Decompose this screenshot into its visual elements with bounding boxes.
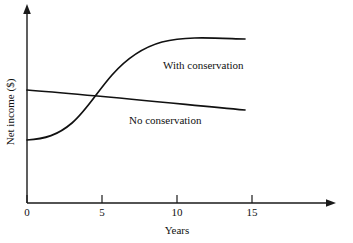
y-axis-arrow-icon <box>23 4 31 14</box>
x-axis-arrow-icon <box>326 199 336 207</box>
x-axis-ticks <box>27 195 252 203</box>
x-tick-label-5: 5 <box>99 206 105 218</box>
y-axis-title: Net income ($) <box>4 78 17 145</box>
series-label-no-conservation: No conservation <box>129 114 202 126</box>
series-line-no-conservation <box>27 90 245 110</box>
series-label-with-conservation: With conservation <box>163 59 244 71</box>
chart-figure: 0 5 10 15 Years Net income ($) With cons… <box>0 0 353 243</box>
x-tick-label-0: 0 <box>24 206 30 218</box>
x-axis-title: Years <box>165 224 190 236</box>
x-tick-label-10: 10 <box>172 206 184 218</box>
x-tick-label-15: 15 <box>247 206 259 218</box>
chart-canvas: 0 5 10 15 Years Net income ($) With cons… <box>0 0 353 243</box>
